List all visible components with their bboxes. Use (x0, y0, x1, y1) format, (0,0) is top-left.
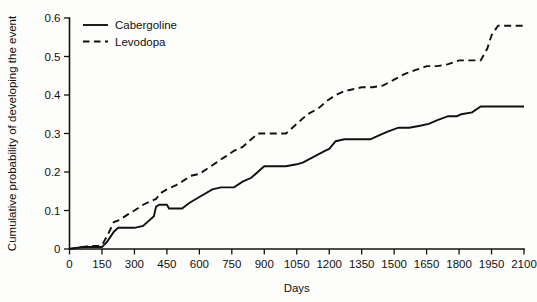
x-axis-title: Days (284, 282, 310, 294)
x-tick-label-8: 1200 (316, 258, 342, 270)
x-tick-label-6: 900 (255, 258, 274, 270)
x-tick-label-12: 1800 (446, 258, 472, 270)
x-tick-label-11: 1650 (414, 258, 440, 270)
y-tick-label-3: 0.3 (45, 128, 61, 140)
x-tick-label-14: 2100 (511, 258, 537, 270)
y-tick-label-4: 0.4 (45, 89, 62, 101)
x-tick-label-10: 1500 (381, 258, 407, 270)
x-tick-label-9: 1350 (349, 258, 375, 270)
x-tick-label-4: 600 (190, 258, 209, 270)
y-tick-label-1: 0.1 (45, 205, 61, 217)
series-line-levodopa (70, 26, 525, 249)
legend-label-levodopa: Levodopa (115, 36, 166, 48)
y-tick-label-2: 0.2 (45, 166, 61, 178)
x-axis: 0150300450600750900105012001350150016501… (66, 249, 537, 270)
y-axis-title: Cumulative probability of developing the… (6, 15, 18, 251)
cumulative-incidence-chart: 00.10.20.30.40.50.6 01503004506007509001… (0, 0, 537, 302)
series-line-cabergoline (70, 107, 525, 249)
x-tick-label-5: 750 (222, 258, 241, 270)
y-tick-label-5: 0.5 (45, 51, 61, 63)
y-tick-label-0: 0 (54, 243, 60, 255)
y-axis: 00.10.20.30.40.50.6 (45, 12, 70, 255)
x-tick-label-13: 1950 (479, 258, 505, 270)
x-tick-label-3: 450 (157, 258, 176, 270)
x-tick-label-0: 0 (66, 258, 72, 270)
series-lines (70, 26, 525, 249)
chart-legend: CabergolineLevodopa (83, 19, 177, 48)
legend-label-cabergoline: Cabergoline (115, 19, 177, 31)
chart-figure: 00.10.20.30.40.50.6 01503004506007509001… (0, 0, 537, 302)
x-tick-label-2: 300 (125, 258, 144, 270)
x-tick-label-7: 1050 (284, 258, 310, 270)
y-tick-label-6: 0.6 (45, 12, 61, 24)
x-tick-label-1: 150 (92, 258, 111, 270)
